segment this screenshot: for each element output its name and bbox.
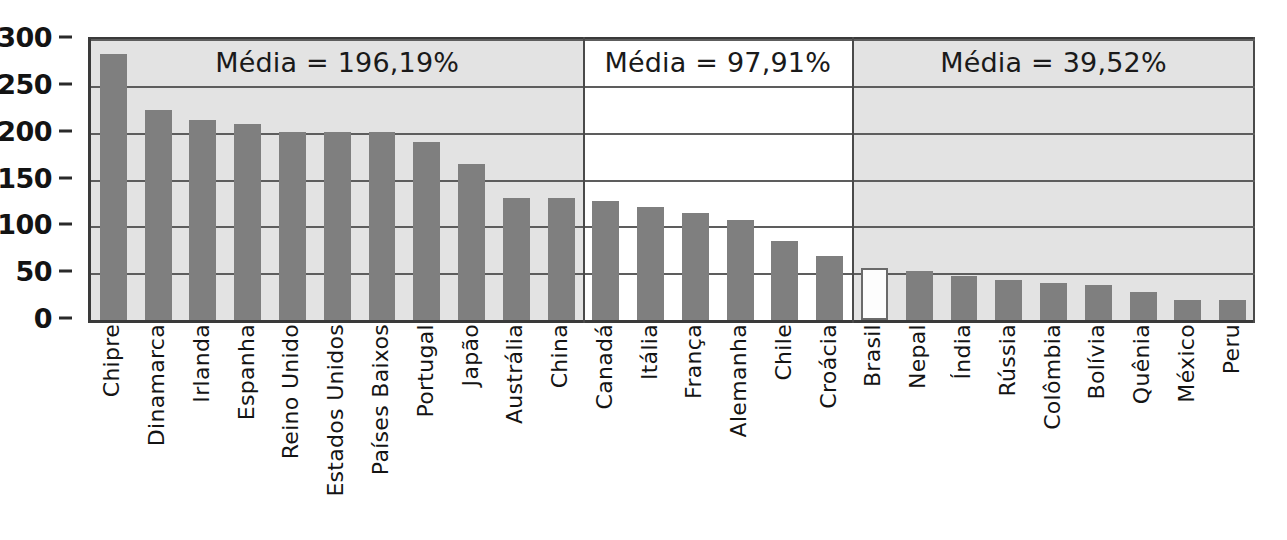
gridline-50 <box>91 273 1255 275</box>
panel-divider-2 <box>852 37 854 323</box>
y-tick-label-150: 150 <box>0 164 52 191</box>
x-label-chipre: Chipre <box>99 324 124 397</box>
y-tick-mark-250 <box>59 82 72 85</box>
y-tick-label-200: 200 <box>0 117 52 144</box>
x-label-irlanda: Irlanda <box>189 324 214 403</box>
x-label-alemanha: Alemanha <box>726 324 751 437</box>
bar-países-baixos[interactable] <box>369 132 396 320</box>
bar-japão[interactable] <box>458 164 485 320</box>
bar-frança[interactable] <box>682 213 709 320</box>
x-label-portugal: Portugal <box>413 324 438 418</box>
y-tick-mark-100 <box>59 223 72 226</box>
bar-canadá[interactable] <box>592 201 619 320</box>
bar-austrália[interactable] <box>503 198 530 320</box>
plot-area: Média = 196,19%Média = 97,91%Média = 39,… <box>88 37 1255 320</box>
y-tick-label-50: 50 <box>15 258 52 285</box>
y-axis: 050100150200250300 <box>0 0 82 540</box>
bar-estados-unidos[interactable] <box>324 132 351 320</box>
bar-índia[interactable] <box>951 276 978 320</box>
x-label-bolívia: Bolívia <box>1084 324 1109 400</box>
panel-mean-label-2: Média = 97,91% <box>583 47 852 78</box>
bar-bolívia[interactable] <box>1085 285 1112 320</box>
x-label-chile: Chile <box>771 324 796 381</box>
x-label-frança: França <box>681 324 706 399</box>
x-label-japão: Japão <box>458 324 483 386</box>
bar-reino-unido[interactable] <box>279 132 306 320</box>
bar-espanha[interactable] <box>234 124 261 320</box>
x-axis-baseline <box>88 320 1255 323</box>
x-label-peru: Peru <box>1219 324 1244 374</box>
bar-dinamarca[interactable] <box>145 110 172 320</box>
bar-peru[interactable] <box>1219 300 1246 320</box>
x-label-itália: Itália <box>637 324 662 380</box>
bar-irlanda[interactable] <box>189 120 216 320</box>
gridline-200 <box>91 133 1255 135</box>
bar-itália[interactable] <box>637 207 664 320</box>
y-tick-label-250: 250 <box>0 70 52 97</box>
y-tick-mark-0 <box>59 317 72 320</box>
x-label-austrália: Austrália <box>502 324 527 424</box>
y-tick-label-100: 100 <box>0 211 52 238</box>
gridline-250 <box>91 86 1255 88</box>
y-tick-mark-200 <box>59 129 72 132</box>
bar-chipre[interactable] <box>100 54 127 320</box>
bar-méxico[interactable] <box>1174 300 1201 320</box>
y-tick-mark-50 <box>59 270 72 273</box>
bar-quênia[interactable] <box>1130 292 1157 320</box>
x-label-colômbia: Colômbia <box>1040 324 1065 430</box>
x-label-canadá: Canadá <box>592 324 617 410</box>
gridline-150 <box>91 180 1255 182</box>
x-label-quênia: Quênia <box>1129 324 1154 404</box>
x-axis-labels: ChipreDinamarcaIrlandaEspanhaReino Unido… <box>88 324 1252 540</box>
y-tick-mark-150 <box>59 176 72 179</box>
bar-china[interactable] <box>548 198 575 320</box>
bar-croácia[interactable] <box>816 256 843 320</box>
x-label-espanha: Espanha <box>234 324 259 420</box>
bar-rússia[interactable] <box>995 280 1022 320</box>
bar-alemanha[interactable] <box>727 220 754 320</box>
y-tick-mark-300 <box>59 36 72 39</box>
gridline-300 <box>91 39 1255 41</box>
y-tick-label-0: 0 <box>34 305 52 332</box>
x-label-china: China <box>547 324 572 388</box>
x-label-índia: Índia <box>950 324 975 380</box>
panel-mean-label-3: Média = 39,52% <box>852 47 1255 78</box>
x-label-croácia: Croácia <box>816 324 841 409</box>
y-tick-label-300: 300 <box>0 24 52 51</box>
bar-portugal[interactable] <box>413 142 440 320</box>
bar-chile[interactable] <box>771 241 798 320</box>
bar-brasil[interactable] <box>861 268 888 320</box>
panel-mean-label-1: Média = 196,19% <box>91 47 583 78</box>
x-label-países-baixos: Países Baixos <box>368 324 393 475</box>
x-label-brasil: Brasil <box>860 324 885 387</box>
x-label-reino-unido: Reino Unido <box>278 324 303 459</box>
x-label-dinamarca: Dinamarca <box>144 324 169 446</box>
bar-colômbia[interactable] <box>1040 283 1067 320</box>
x-label-estados-unidos: Estados Unidos <box>323 324 348 497</box>
x-label-nepal: Nepal <box>905 324 930 389</box>
bar-chart: 050100150200250300 Média = 196,19%Média … <box>0 0 1287 540</box>
x-label-méxico: México <box>1174 324 1199 403</box>
panel-divider-1 <box>583 37 585 323</box>
bar-nepal[interactable] <box>906 271 933 320</box>
gridline-100 <box>91 226 1255 228</box>
x-label-rússia: Rússia <box>995 324 1020 397</box>
